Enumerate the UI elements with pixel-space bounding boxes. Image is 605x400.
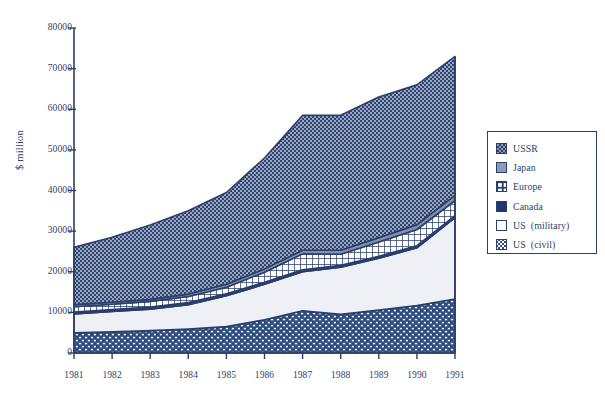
legend-label: US (military) xyxy=(513,220,569,231)
legend-item[interactable]: Europe xyxy=(496,177,596,196)
legend-swatch-icon xyxy=(496,143,507,154)
legend-item[interactable]: USSR xyxy=(496,139,596,158)
legend-item[interactable]: US (civil) xyxy=(496,235,596,254)
legend-item[interactable]: Canada xyxy=(496,197,596,216)
legend-item[interactable]: Japan xyxy=(496,158,596,177)
legend-swatch-icon xyxy=(496,162,507,173)
legend: USSRJapanEuropeCanadaUS (military)US (ci… xyxy=(487,131,597,254)
stacked-bands xyxy=(74,56,455,353)
stacked-area-chart: $ million 010000200003000040000500006000… xyxy=(0,0,605,400)
legend-label: Europe xyxy=(513,181,542,192)
legend-swatch-icon xyxy=(496,201,507,212)
legend-label: Canada xyxy=(513,201,543,212)
legend-item[interactable]: US (military) xyxy=(496,216,596,235)
legend-swatch-icon xyxy=(496,181,507,192)
legend-swatch-icon xyxy=(496,220,507,231)
legend-label: USSR xyxy=(513,143,538,154)
legend-label: US (civil) xyxy=(513,239,555,250)
legend-swatch-icon xyxy=(496,239,507,250)
legend-label: Japan xyxy=(513,162,536,173)
